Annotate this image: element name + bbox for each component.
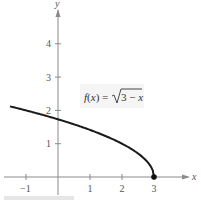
y-ticks: 1234 [46,38,61,149]
y-tick-label: 2 [46,105,51,116]
x-tick-label: 1 [88,183,93,194]
x-axis-arrow-icon [182,175,190,180]
y-tick-label: 1 [46,138,51,149]
svg-text:f(x) =: f(x) = [84,91,108,104]
caption-remnant [4,196,74,200]
endpoint-dot [151,174,157,180]
svg-text:3 − x: 3 − x [121,91,143,103]
x-tick-label: −1 [20,183,31,194]
y-tick-label: 4 [46,38,51,49]
y-axis-label: y [54,0,60,9]
y-axis-arrow-icon [56,9,61,17]
x-axis-label: x [191,171,197,182]
y-tick-label: 3 [46,72,51,83]
function-graph: x y −1123 1234 f(x) = 3 − x [0,0,201,200]
x-tick-label: 3 [152,183,157,194]
x-tick-label: 2 [120,183,125,194]
function-curve [10,106,154,177]
